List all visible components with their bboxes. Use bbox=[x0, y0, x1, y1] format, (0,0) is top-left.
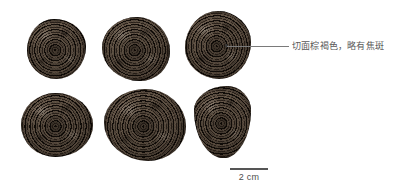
annotation-leader-line bbox=[227, 46, 289, 47]
scale-bar-line bbox=[230, 168, 268, 170]
specimen-4-edge bbox=[21, 93, 93, 157]
specimen-1 bbox=[27, 19, 86, 79]
specimen-6-edge bbox=[194, 86, 251, 158]
specimen-5-edge bbox=[104, 89, 186, 161]
specimen-4 bbox=[21, 93, 93, 157]
annotation-label: 切面棕褐色，略有焦斑 bbox=[292, 40, 384, 52]
scale-bar: 2 cm bbox=[230, 168, 268, 183]
specimen-2-edge bbox=[102, 17, 170, 81]
specimen-2 bbox=[102, 17, 170, 81]
scale-bar-label: 2 cm bbox=[230, 172, 268, 183]
specimen-1-edge bbox=[27, 19, 86, 79]
specimen-3-edge bbox=[185, 11, 251, 79]
specimen-6 bbox=[194, 86, 251, 158]
specimen-3 bbox=[185, 11, 251, 79]
specimen-5 bbox=[104, 89, 186, 161]
specimen-plate: 切面棕褐色，略有焦斑 2 cm bbox=[0, 0, 411, 192]
